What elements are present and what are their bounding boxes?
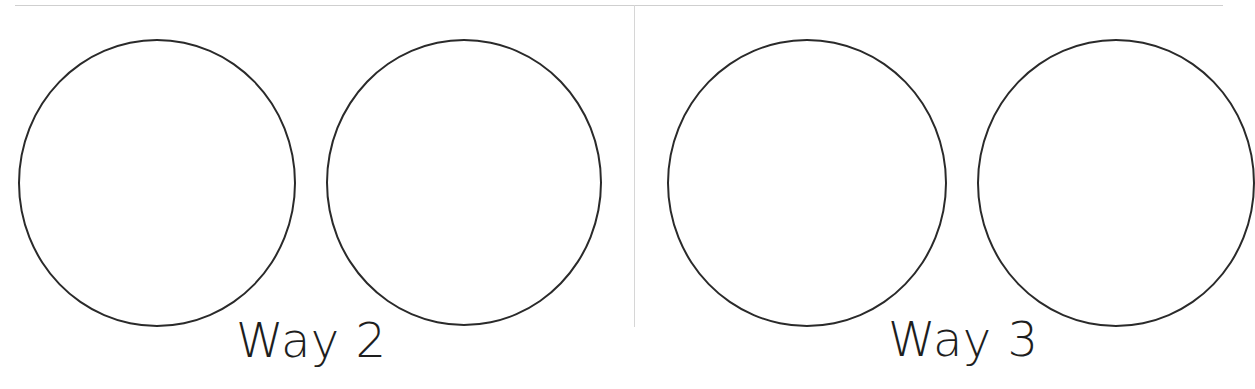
drawing-circle-1[interactable] [18, 39, 296, 327]
panel-divider [634, 5, 635, 327]
drawing-circle-3[interactable] [667, 39, 947, 327]
panel-label: Way 2 [236, 316, 387, 364]
drawing-circle-2[interactable] [326, 39, 602, 326]
panel-label: Way 3 [888, 315, 1039, 363]
drawing-circle-4[interactable] [977, 39, 1255, 327]
top-rule-line [15, 5, 1223, 6]
